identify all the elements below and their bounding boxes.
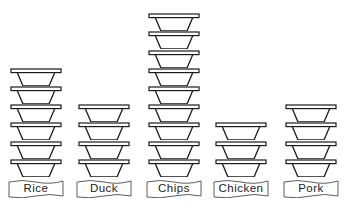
bowl-icon xyxy=(78,122,136,140)
label-chips: Chips xyxy=(146,180,202,198)
bowl-icon xyxy=(148,68,206,86)
label-text: Chips xyxy=(146,182,202,194)
bowl-icon xyxy=(215,122,273,140)
label-duck: Duck xyxy=(76,180,132,198)
label-chicken: Chicken xyxy=(213,180,269,198)
bowl-icon xyxy=(10,159,68,177)
bowl-icon xyxy=(285,159,343,177)
bowl-icon xyxy=(215,141,273,159)
bowl-icon xyxy=(78,104,136,122)
bowl-icon xyxy=(148,31,206,49)
label-rice: Rice xyxy=(8,180,64,198)
bowl-icon xyxy=(148,104,206,122)
bowl-icon xyxy=(215,159,273,177)
bowl-icon xyxy=(148,13,206,31)
bowl-icon xyxy=(78,159,136,177)
label-text: Chicken xyxy=(213,182,269,194)
label-text: Duck xyxy=(76,182,132,194)
bowl-icon xyxy=(148,159,206,177)
label-text: Pork xyxy=(283,182,339,194)
bowl-icon xyxy=(285,141,343,159)
bowl-icon xyxy=(148,50,206,68)
bowl-icon xyxy=(148,86,206,104)
bowl-icon xyxy=(148,141,206,159)
label-text: Rice xyxy=(8,182,64,194)
bowl-icon xyxy=(285,104,343,122)
label-pork: Pork xyxy=(283,180,339,198)
bowl-icon xyxy=(10,141,68,159)
bowl-icon xyxy=(148,122,206,140)
bowl-icon xyxy=(285,122,343,140)
bowl-icon xyxy=(10,104,68,122)
bowl-icon xyxy=(78,141,136,159)
bowl-icon xyxy=(10,86,68,104)
bowl-icon xyxy=(10,68,68,86)
bowl-icon xyxy=(10,122,68,140)
